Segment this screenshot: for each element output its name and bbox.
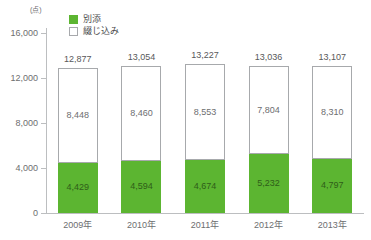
x-axis-label: 2013年	[301, 218, 363, 231]
stacked-bar-chart: (点) 別添 綴じ込み 04,0008,00012,00016,000 8,44…	[0, 0, 371, 240]
bar-segment-value: 8,460	[130, 109, 153, 118]
bar-segment-value: 4,674	[194, 182, 217, 191]
bar-stack[interactable]: 8,4484,429	[58, 68, 98, 213]
bar-stack[interactable]: 8,5534,674	[185, 64, 225, 213]
bar-total-label: 13,036	[238, 52, 300, 62]
legend-item-besshi[interactable]: 別添	[69, 14, 119, 24]
bar-segment-tojikomi[interactable]: 8,310	[312, 66, 352, 159]
bar-segment-value: 4,594	[130, 182, 153, 191]
bar-segment-besshi[interactable]: 4,594	[121, 161, 161, 213]
bar-stack[interactable]: 7,8045,232	[249, 66, 289, 213]
bar-segment-besshi[interactable]: 4,674	[185, 160, 225, 213]
bar-total-label: 13,107	[301, 52, 363, 62]
x-axis-label: 2012年	[238, 218, 300, 231]
x-axis-label: 2011年	[174, 218, 236, 231]
bar-group[interactable]: 8,3104,79713,107	[301, 28, 363, 213]
bar-segment-tojikomi[interactable]: 8,460	[121, 66, 161, 161]
bar-group[interactable]: 8,4484,42912,877	[47, 28, 109, 213]
x-axis-labels: 2009年2010年2011年2012年2013年	[46, 218, 364, 232]
bar-segment-value: 8,448	[67, 111, 90, 120]
y-axis-tick-label: 16,000	[0, 28, 38, 38]
bar-total-label: 13,054	[110, 52, 172, 62]
bar-segment-besshi[interactable]: 5,232	[249, 154, 289, 213]
bar-total-label: 12,877	[47, 54, 109, 64]
bar-segment-value: 7,804	[257, 106, 280, 115]
bar-stack[interactable]: 8,4604,594	[121, 66, 161, 213]
bar-segment-besshi[interactable]: 4,797	[312, 159, 352, 213]
bar-stack[interactable]: 8,3104,797	[312, 66, 352, 213]
bar-segment-value: 5,232	[257, 179, 280, 188]
bar-group[interactable]: 7,8045,23213,036	[238, 28, 300, 213]
bar-segment-tojikomi[interactable]: 8,448	[58, 68, 98, 163]
bar-segment-tojikomi[interactable]: 7,804	[249, 66, 289, 154]
bar-segment-value: 4,797	[321, 181, 344, 190]
legend-swatch-green-icon	[69, 15, 78, 24]
y-axis-tick-label: 8,000	[0, 118, 38, 128]
bar-segment-value: 4,429	[67, 183, 90, 192]
bar-group[interactable]: 8,4604,59413,054	[110, 28, 172, 213]
x-axis-label: 2009年	[47, 218, 109, 231]
y-axis-tick-label: 4,000	[0, 163, 38, 173]
bar-group[interactable]: 8,5534,67413,227	[174, 28, 236, 213]
bar-segment-besshi[interactable]: 4,429	[58, 163, 98, 213]
y-axis-tick-label: 12,000	[0, 73, 38, 83]
y-axis-tick-label: 0	[0, 208, 38, 218]
legend-label-besshi: 別添	[83, 14, 101, 24]
bar-segment-tojikomi[interactable]: 8,553	[185, 64, 225, 160]
bar-total-label: 13,227	[174, 50, 236, 60]
bars-container: 8,4484,42912,8778,4604,59413,0548,5534,6…	[46, 28, 364, 214]
bar-segment-value: 8,310	[321, 108, 344, 117]
x-axis-label: 2010年	[110, 218, 172, 231]
y-axis-unit-label: (点)	[30, 4, 42, 14]
bar-segment-value: 8,553	[194, 108, 217, 117]
